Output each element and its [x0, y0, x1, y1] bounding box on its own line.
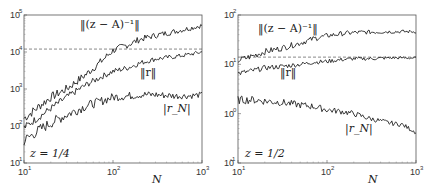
y-tick-exponent: 2 — [19, 119, 23, 125]
x-tick-label: 10 — [18, 167, 28, 177]
x-tick-exponent: 1 — [28, 165, 32, 171]
x-tick-label: 10 — [107, 167, 117, 177]
x-tick-label: 10 — [196, 167, 206, 177]
left-panel: 101102103104105101102103 ‖(z − A)⁻¹‖ ‖r‖… — [10, 8, 210, 186]
right-label-resolvent: ‖(z − A)⁻¹‖ — [258, 22, 318, 36]
left-label-resolvent: ‖(z − A)⁻¹‖ — [80, 18, 140, 32]
right-label-r-norm: ‖r‖ — [280, 66, 296, 80]
y-tick-exponent: 1 — [233, 57, 237, 63]
left-label-rN: |r_N| — [163, 102, 191, 116]
x-tick-exponent: 3 — [206, 165, 210, 171]
left-axes-frame — [24, 15, 202, 163]
y-tick-exponent: -1 — [230, 156, 236, 162]
right-label-rN: |r_N| — [345, 122, 373, 136]
x-tick-label: 10 — [410, 167, 420, 177]
left-annotation-z: z = 1/4 — [29, 147, 70, 160]
right-panel: 10-1100101102101102103 ‖(z − A)⁻¹‖ ‖r‖ |… — [224, 8, 424, 186]
right-axes-frame — [238, 15, 416, 163]
x-tick-exponent: 2 — [331, 165, 335, 171]
y-tick-exponent: 4 — [19, 45, 23, 51]
y-tick-exponent: 0 — [233, 107, 237, 113]
left-xlabel: N — [151, 173, 162, 186]
y-tick-exponent: 5 — [19, 8, 23, 14]
right-xlabel: N — [367, 173, 378, 186]
y-tick-exponent: 1 — [19, 156, 23, 162]
y-tick-exponent: 2 — [233, 8, 237, 14]
x-tick-exponent: 2 — [117, 165, 121, 171]
x-tick-exponent: 3 — [420, 165, 424, 171]
left-label-r-norm: ‖r‖ — [140, 66, 156, 80]
y-tick-exponent: 3 — [19, 82, 23, 88]
x-tick-exponent: 1 — [242, 165, 246, 171]
right-annotation-z: z = 1/2 — [244, 147, 285, 160]
x-tick-label: 10 — [321, 167, 331, 177]
x-tick-label: 10 — [232, 167, 242, 177]
right-series-residual-norm — [238, 57, 416, 75]
figure: 101102103104105101102103 ‖(z − A)⁻¹‖ ‖r‖… — [0, 0, 431, 188]
left-series-residual-norm — [24, 51, 202, 128]
right-series-last-residual — [238, 96, 416, 134]
